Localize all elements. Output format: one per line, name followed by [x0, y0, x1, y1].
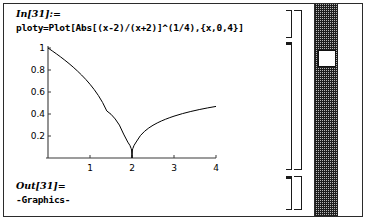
cell-bracket-group-output[interactable]	[294, 176, 302, 210]
x-tick-label: 4	[213, 163, 219, 173]
output-text: -Graphics-	[16, 193, 316, 206]
y-tick-label: 0.8	[31, 65, 46, 75]
y-tick-labels: 1 0.8 0.6 0.4 0.2	[31, 43, 46, 141]
x-tick-label: 2	[129, 163, 135, 173]
y-tick-label: 1	[39, 43, 45, 53]
input-cell-label: In[31]:=	[16, 8, 316, 20]
input-cell[interactable]: In[31]:= ploty=Plot[Abs[(x-2)/(x+2)]^(1/…	[16, 8, 316, 34]
plot-curve	[48, 48, 216, 158]
notebook-content-area: In[31]:= ploty=Plot[Abs[(x-2)/(x+2)]^(1/…	[4, 4, 338, 216]
output-cell[interactable]: Out[31]= -Graphics-	[16, 180, 316, 206]
notebook-window: In[31]:= ploty=Plot[Abs[(x-2)/(x+2)]^(1/…	[3, 3, 363, 217]
x-tick-label: 3	[171, 163, 177, 173]
graphics-plot-cell[interactable]: 1 0.8 0.6 0.4 0.2 1 2 3 4	[20, 40, 220, 175]
output-cell-label: Out[31]=	[16, 180, 316, 192]
cell-bracket-output[interactable]	[286, 176, 292, 210]
cell-bracket-output-tick	[286, 176, 291, 179]
x-tick-labels: 1 2 3 4	[87, 163, 219, 173]
plot-svg: 1 0.8 0.6 0.4 0.2 1 2 3 4	[20, 40, 220, 175]
cell-bracket-column	[286, 4, 312, 216]
cell-bracket-input[interactable]	[286, 10, 292, 38]
scrollbar-thumb[interactable]	[318, 50, 336, 67]
cell-bracket-group-outer[interactable]	[294, 10, 302, 170]
vertical-scrollbar[interactable]	[314, 4, 338, 216]
input-code-text[interactable]: ploty=Plot[Abs[(x-2)/(x+2)]^(1/4),{x,0,4…	[16, 21, 316, 34]
y-tick-label: 0.6	[31, 87, 46, 97]
y-tick-label: 0.4	[31, 109, 46, 119]
cell-bracket-graphics-tick	[286, 42, 291, 45]
x-tick-label: 1	[87, 163, 93, 173]
y-tick-label: 0.2	[31, 131, 45, 141]
cell-bracket-graphics[interactable]	[286, 42, 292, 170]
